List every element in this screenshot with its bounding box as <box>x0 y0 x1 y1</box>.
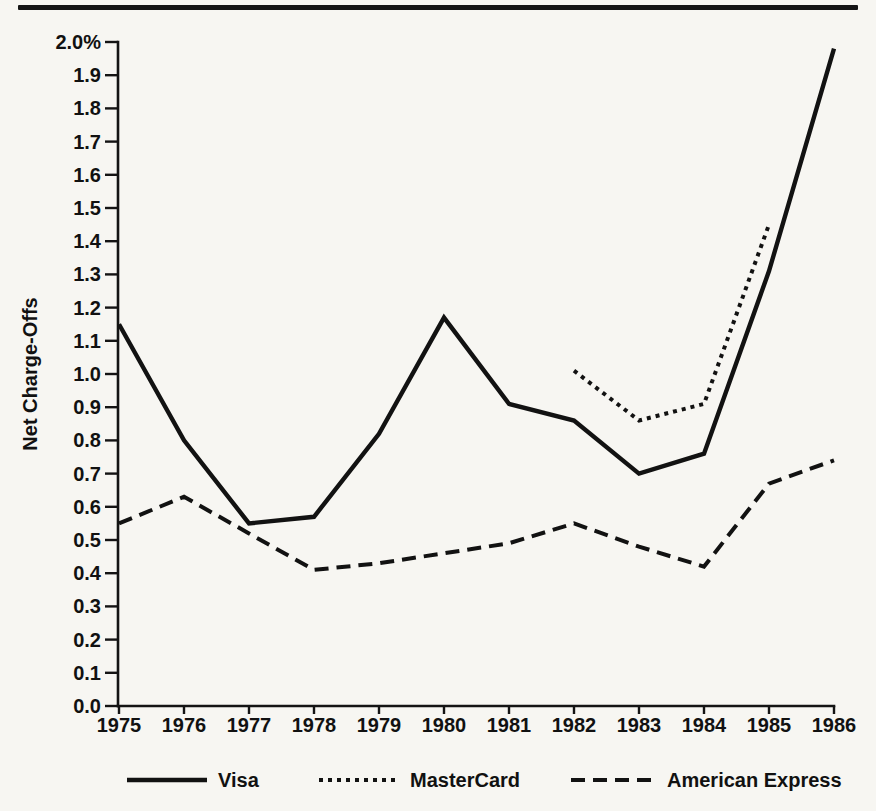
y-tick-label: 0.3 <box>73 595 101 617</box>
x-tick-label: 1984 <box>682 714 727 736</box>
y-tick-label: 1.7 <box>73 131 101 153</box>
y-tick-label: 0.8 <box>73 429 101 451</box>
mastercard-line <box>574 225 769 421</box>
y-tick-label: 1.6 <box>73 164 101 186</box>
y-tick-label: 1.5 <box>73 197 101 219</box>
legend-label-american-express: American Express <box>667 768 842 792</box>
x-tick-label: 1983 <box>617 714 662 736</box>
x-tick-label: 1980 <box>422 714 467 736</box>
x-tick-label: 1982 <box>552 714 597 736</box>
legend-item-american-express: American Express <box>570 768 842 792</box>
legend-item-mastercard: MasterCard <box>318 768 520 792</box>
x-tick-label: 1986 <box>812 714 857 736</box>
y-tick-label: 1.4 <box>73 230 102 252</box>
net-charge-offs-line-chart: 2.0%1.91.81.71.61.51.41.31.21.11.00.90.8… <box>0 0 876 811</box>
dotted-line-sample <box>318 775 400 785</box>
american-express-line <box>119 460 834 570</box>
legend-label-visa: Visa <box>218 768 259 792</box>
x-tick-label: 1985 <box>747 714 792 736</box>
y-tick-label: 0.1 <box>73 662 101 684</box>
y-tick-label: 2.0% <box>55 31 101 53</box>
y-tick-label: 1.3 <box>73 263 101 285</box>
x-tick-label: 1978 <box>292 714 337 736</box>
x-tick-label: 1976 <box>162 714 207 736</box>
y-tick-label: 1.8 <box>73 97 101 119</box>
dashed-line-sample <box>570 775 657 785</box>
x-tick-label: 1975 <box>97 714 142 736</box>
visa-line <box>119 49 834 524</box>
y-tick-label: 1.9 <box>73 64 101 86</box>
y-tick-label: 1.0 <box>73 363 101 385</box>
y-tick-label: 0.7 <box>73 463 101 485</box>
y-tick-label: 0.4 <box>73 562 102 584</box>
x-tick-label: 1977 <box>227 714 272 736</box>
scanned-chart-page: Net Charge-Offs 2.0%1.91.81.71.61.51.41.… <box>0 0 876 811</box>
x-tick-label: 1981 <box>487 714 532 736</box>
y-tick-label: 0.9 <box>73 396 101 418</box>
y-tick-label: 0.2 <box>73 629 101 651</box>
legend-label-mastercard: MasterCard <box>410 768 520 792</box>
legend-item-visa: Visa <box>126 768 259 792</box>
solid-line-sample <box>126 775 208 785</box>
y-tick-label: 1.1 <box>73 330 101 352</box>
y-tick-label: 0.6 <box>73 496 101 518</box>
y-tick-label: 1.2 <box>73 297 101 319</box>
y-tick-label: 0.5 <box>73 529 101 551</box>
x-tick-label: 1979 <box>357 714 402 736</box>
